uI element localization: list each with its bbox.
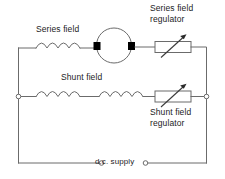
circuit-schematic	[0, 0, 225, 179]
label-series-field-regulator: Series field regulator	[150, 3, 193, 24]
terminal-left[interactable]	[16, 94, 21, 99]
shunt-field-coil-left	[36, 92, 80, 97]
label-series-field-regulator-line2: regulator	[150, 14, 193, 25]
terminal-supply-right[interactable]	[143, 161, 148, 166]
label-series-field-regulator-line1: Series field	[150, 3, 193, 14]
series-field-coil	[36, 43, 80, 48]
brush-right-icon	[128, 42, 135, 50]
label-shunt-field-regulator-line1: Shunt field	[150, 107, 191, 118]
label-shunt-field: Shunt field	[61, 72, 102, 83]
circuit-diagram: Series field Shunt field Series field re…	[0, 0, 225, 179]
brush-left-icon	[94, 42, 101, 50]
label-series-field: Series field	[36, 24, 79, 35]
motor-armature-circle	[97, 28, 132, 63]
shunt-field-coil-right	[99, 92, 143, 97]
terminal-right[interactable]	[204, 94, 209, 99]
label-dc-supply: d.c. supply	[95, 157, 134, 168]
label-shunt-field-regulator-line2: regulator	[150, 118, 191, 129]
wire-regulator-to-right-rail	[191, 47, 207, 48]
label-shunt-field-regulator: Shunt field regulator	[150, 107, 191, 128]
